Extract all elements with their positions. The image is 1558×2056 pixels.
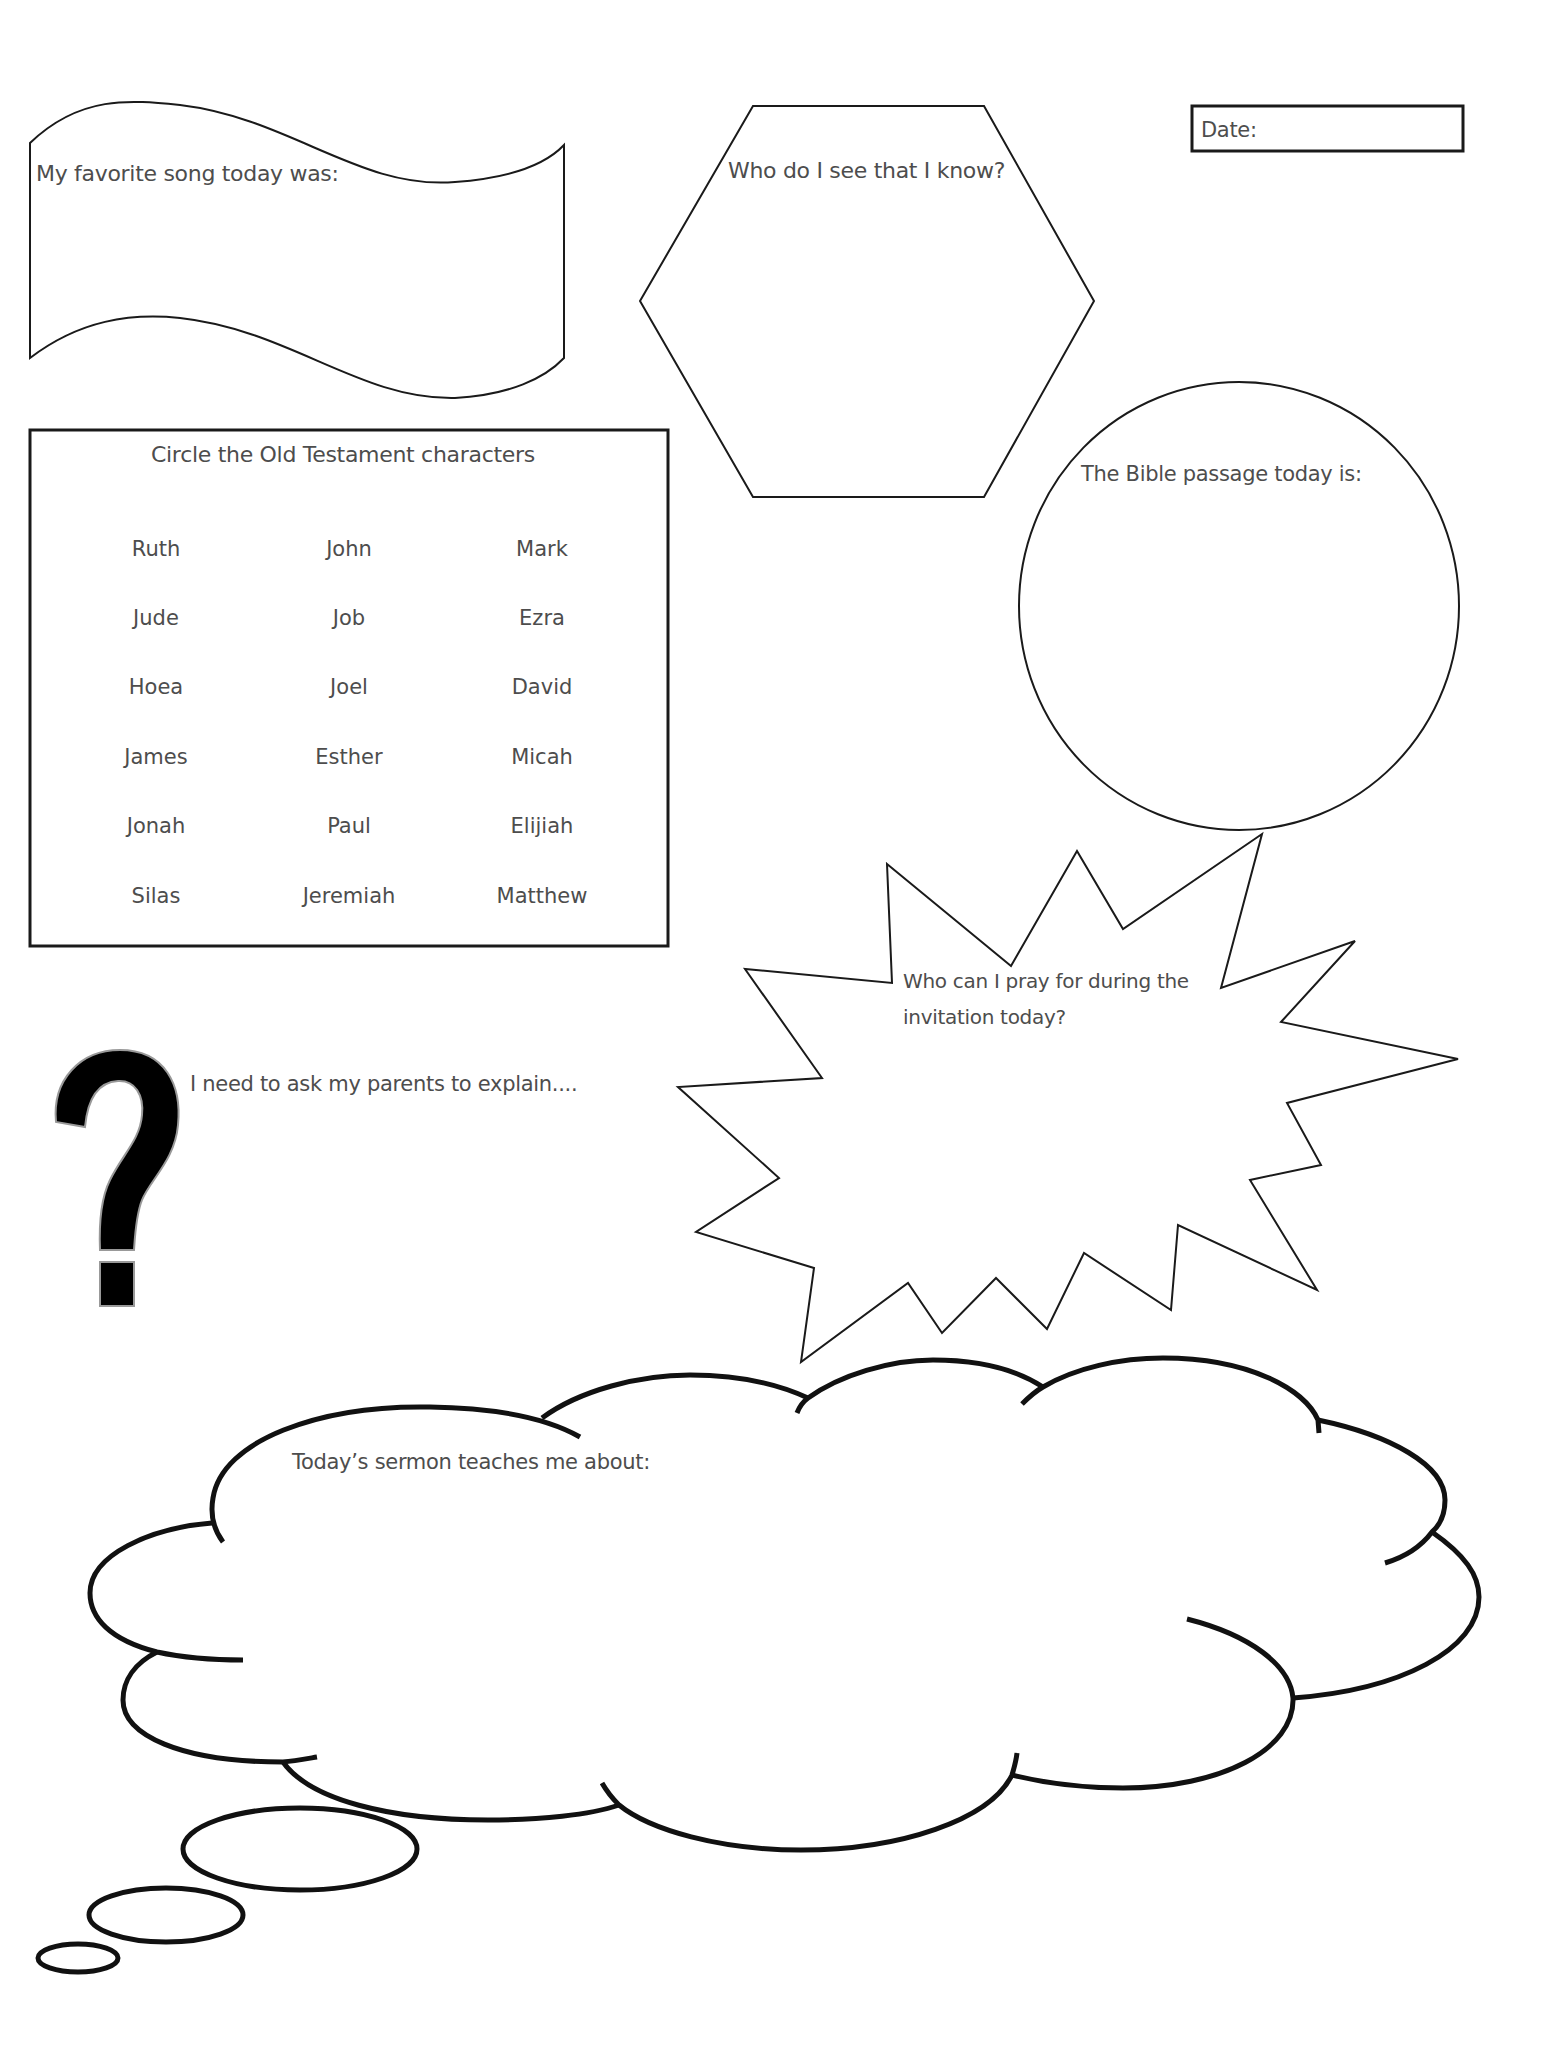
ot-name-elijiah[interactable]: Elijiah <box>511 816 574 837</box>
favorite-song-label: My favorite song today was: <box>36 163 339 185</box>
pray-answer-area[interactable] <box>830 1040 1250 1240</box>
ot-name-matthew[interactable]: Matthew <box>497 886 588 907</box>
ot-name-job[interactable]: Job <box>333 608 365 629</box>
question-mark-icon <box>56 1050 179 1306</box>
bible-passage-answer-area[interactable] <box>1060 500 1420 780</box>
ask-parents-label: I need to ask my parents to explain.... <box>190 1074 577 1095</box>
ot-name-ruth[interactable]: Ruth <box>132 539 181 560</box>
bible-passage-label: The Bible passage today is: <box>1081 464 1362 485</box>
ot-name-ezra[interactable]: Ezra <box>519 608 565 629</box>
old-testament-title: Circle the Old Testament characters <box>151 444 535 466</box>
ask-parents-answer-area[interactable] <box>190 1110 640 1300</box>
date-field[interactable] <box>1262 110 1458 147</box>
ot-name-micah[interactable]: Micah <box>511 747 573 768</box>
ot-name-paul[interactable]: Paul <box>327 816 371 837</box>
sermon-answer-area[interactable] <box>230 1490 1280 1770</box>
ot-name-joel[interactable]: Joel <box>330 677 368 698</box>
ot-name-silas[interactable]: Silas <box>132 886 181 907</box>
ot-name-jonah[interactable]: Jonah <box>127 816 186 837</box>
date-label: Date: <box>1201 120 1257 141</box>
sermon-label: Today’s sermon teaches me about: <box>292 1452 650 1473</box>
pray-label-line2: invitation today? <box>903 1007 1066 1027</box>
ot-name-hoea[interactable]: Hoea <box>129 677 183 698</box>
ot-name-jeremiah[interactable]: Jeremiah <box>303 886 396 907</box>
who-do-i-see-answer-area[interactable] <box>700 200 1040 480</box>
ot-name-john[interactable]: John <box>326 539 372 560</box>
pray-label-line1: Who can I pray for during the <box>903 971 1189 991</box>
thought-bubble-medium <box>89 1888 243 1942</box>
ot-name-esther[interactable]: Esther <box>315 747 382 768</box>
favorite-song-answer-area[interactable] <box>40 200 555 320</box>
ot-name-james[interactable]: James <box>124 747 187 768</box>
thought-bubble-small <box>38 1944 118 1972</box>
ot-name-david[interactable]: David <box>512 677 573 698</box>
ot-name-mark[interactable]: Mark <box>516 539 568 560</box>
thought-bubble-large <box>183 1808 417 1890</box>
ot-name-jude[interactable]: Jude <box>133 608 179 629</box>
who-do-i-see-label: Who do I see that I know? <box>728 160 1005 182</box>
